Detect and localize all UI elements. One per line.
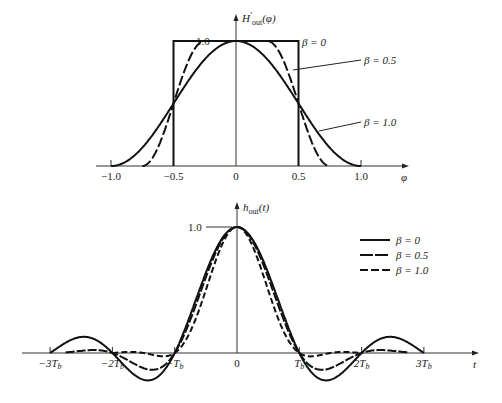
top-x-tick-label: 0 xyxy=(233,170,239,182)
legend-label-beta-0: β = 0 xyxy=(395,234,420,246)
top-x-ticks: −1.0−0.500.51.0 xyxy=(101,160,368,182)
raised-cosine-figure: −1.0−0.500.51.0 1.0 φ H′out(φ) β = 0 β =… xyxy=(0,0,502,403)
annotation-beta-0.5: β = 0.5 xyxy=(363,54,397,66)
legend-label-beta-1.0: β = 1.0 xyxy=(395,264,429,276)
bottom-ylabel-arg: (t) xyxy=(259,201,270,214)
annotation-beta-0: β = 0 xyxy=(301,36,326,48)
bottom-y-axis-arrow-icon xyxy=(235,202,240,209)
annotation-beta-1.0: β = 1.0 xyxy=(363,116,397,128)
top-y-axis-arrow-icon xyxy=(234,14,239,21)
top-x-tick-label: 0.5 xyxy=(292,170,306,182)
top-x-tick-label: −1.0 xyxy=(101,170,121,182)
top-y-axis-label: H′out(φ) xyxy=(241,10,276,27)
bottom-x-tick-label: 0 xyxy=(234,357,240,369)
bottom-y-tick-1: 1.0 xyxy=(188,221,202,233)
top-x-axis-arrow-icon xyxy=(402,164,409,169)
bottom-x-axis-label: t xyxy=(473,358,477,370)
bottom-x-tick-label: −2Tb xyxy=(101,357,124,371)
bottom-x-tick-label: −3Tb xyxy=(39,357,62,371)
legend-label-beta-0.5: β = 0.5 xyxy=(395,249,429,261)
bottom-x-tick-label: 3Tb xyxy=(415,357,432,371)
top-x-tick-label: 1.0 xyxy=(354,170,368,182)
legend: β = 0 β = 0.5 β = 1.0 xyxy=(360,234,429,276)
leader-beta-1.0 xyxy=(319,122,361,131)
leader-beta-0.5 xyxy=(293,60,361,70)
top-x-axis-label: φ xyxy=(401,171,407,183)
bottom-panel-impulse-response: 1.0 hout(t) t −3Tb−2Tb−Tb0Tb2Tb3Tb β = 0… xyxy=(22,201,479,380)
top-x-tick-label: −0.5 xyxy=(164,170,184,182)
bottom-y-axis-label: hout(t) xyxy=(243,201,269,216)
bottom-x-axis-arrow-icon xyxy=(472,351,479,356)
top-ylabel-arg: (φ) xyxy=(262,12,276,25)
top-panel-frequency-response: −1.0−0.500.51.0 1.0 φ H′out(φ) β = 0 β =… xyxy=(96,10,409,183)
